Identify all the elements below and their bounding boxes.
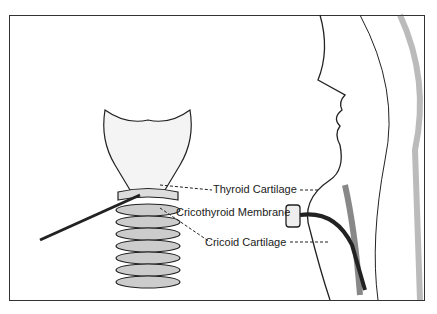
label-cricothyroid-membrane: Cricothyroid Membrane <box>176 206 290 218</box>
larynx-drawing <box>40 110 191 288</box>
label-cricoid-cartilage: Cricoid Cartilage <box>205 236 286 248</box>
face-profile <box>286 15 420 300</box>
trachea-rings <box>116 204 180 288</box>
anatomy-illustration <box>0 0 437 314</box>
label-thyroid-cartilage: Thyroid Cartilage <box>213 183 297 195</box>
